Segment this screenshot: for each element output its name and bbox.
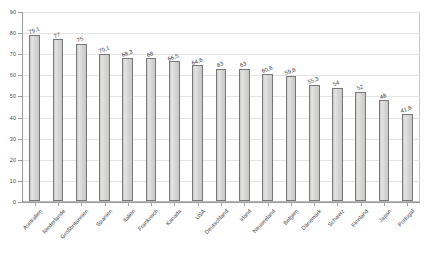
y-tick-label: 90	[0, 9, 16, 15]
bar-slot: 64,6	[192, 12, 203, 201]
y-tick-label: 40	[0, 115, 16, 121]
y-tick-label: 50	[0, 93, 16, 99]
bar[interactable]	[379, 100, 390, 201]
bar-chart: 0102030405060708090 79,1777570,168,36866…	[0, 0, 428, 268]
x-tick-mark	[128, 202, 129, 206]
bar-value-label: 68	[146, 50, 154, 58]
bars-container: 79,1777570,168,36866,564,6636360,659,655…	[23, 12, 419, 201]
x-tick-mark	[337, 202, 338, 206]
bar[interactable]	[53, 39, 64, 201]
bar-value-label: 68,3	[121, 49, 133, 58]
x-tick-mark	[314, 202, 315, 206]
x-tick-mark	[151, 202, 152, 206]
bar-slot: 79,1	[29, 12, 40, 201]
bar-slot: 68	[146, 12, 157, 201]
x-tick-mark	[291, 202, 292, 206]
bar-value-label: 66,5	[167, 52, 179, 61]
bar[interactable]	[332, 88, 343, 201]
bar[interactable]	[169, 61, 180, 201]
bar-slot: 77	[53, 12, 64, 201]
x-tick-mark	[198, 202, 199, 206]
bar[interactable]	[29, 35, 40, 201]
x-tick-mark	[35, 202, 36, 206]
bar-slot: 54	[332, 12, 343, 201]
bar-value-label: 60,6	[260, 65, 272, 74]
bar[interactable]	[262, 74, 273, 201]
bar-slot: 66,5	[169, 12, 180, 201]
y-tick-label: 30	[0, 136, 16, 142]
bar-slot: 55,3	[309, 12, 320, 201]
bar-value-label: 64,6	[190, 56, 202, 65]
bar[interactable]	[99, 54, 110, 201]
x-tick-mark	[268, 202, 269, 206]
y-tick-label: 60	[0, 72, 16, 78]
bar-value-label: 79,1	[27, 26, 39, 35]
bar-slot: 59,6	[286, 12, 297, 201]
bar[interactable]	[239, 69, 250, 201]
bar-slot: 41,6	[402, 12, 413, 201]
bar-slot: 75	[76, 12, 87, 201]
bar-slot: 60,6	[262, 12, 273, 201]
x-axis-ticks	[23, 202, 419, 207]
x-tick-mark	[407, 202, 408, 206]
bar[interactable]	[146, 58, 157, 201]
bar-slot: 63	[239, 12, 250, 201]
bar-value-label: 63	[239, 60, 247, 68]
x-axis-labels: AustralienNiederlandeGroßbritannienSpani…	[23, 208, 419, 266]
bar-value-label: 55,3	[307, 76, 319, 85]
bar-value-label: 54	[332, 79, 340, 87]
bar[interactable]	[192, 65, 203, 201]
bar-value-label: 63	[216, 60, 224, 68]
bar-value-label: 77	[53, 31, 61, 39]
bar-slot: 48	[379, 12, 390, 201]
x-tick-mark	[58, 202, 59, 206]
x-tick-mark	[361, 202, 362, 206]
bar-value-label: 70,1	[97, 45, 109, 54]
x-tick-mark	[221, 202, 222, 206]
bar[interactable]	[122, 58, 133, 201]
bar[interactable]	[355, 92, 366, 201]
bar-value-label: 59,6	[284, 67, 296, 76]
y-tick-label: 70	[0, 51, 16, 57]
x-tick-mark	[244, 202, 245, 206]
bar[interactable]	[309, 85, 320, 201]
bar-slot: 68,3	[122, 12, 133, 201]
x-tick-mark	[384, 202, 385, 206]
bar-value-label: 52	[356, 84, 364, 92]
bar-value-label: 41,6	[400, 105, 412, 114]
y-tick-label: 10	[0, 178, 16, 184]
y-tick-label: 80	[0, 30, 16, 36]
bar-value-label: 48	[379, 92, 387, 100]
bar[interactable]	[76, 44, 87, 202]
bar-slot: 52	[355, 12, 366, 201]
bar[interactable]	[286, 76, 297, 201]
y-tick-mark	[18, 202, 22, 203]
bar-slot: 70,1	[99, 12, 110, 201]
x-tick-mark	[81, 202, 82, 206]
x-tick-mark	[105, 202, 106, 206]
y-tick-label: 0	[0, 199, 16, 205]
y-tick-label: 20	[0, 157, 16, 163]
bar[interactable]	[216, 69, 227, 201]
bar-value-label: 75	[76, 35, 84, 43]
bar-slot: 63	[216, 12, 227, 201]
x-tick-mark	[174, 202, 175, 206]
bar[interactable]	[402, 114, 413, 201]
